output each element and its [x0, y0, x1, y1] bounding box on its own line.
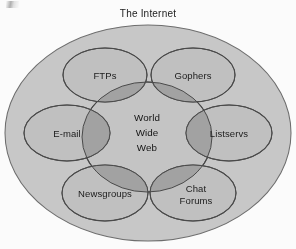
listservs-label: Listservs: [210, 128, 249, 139]
www-label-line2: Wide: [136, 127, 159, 138]
diagram-title: The Internet: [120, 8, 176, 19]
chat-forums-label-line2: Forums: [180, 195, 213, 206]
venn-diagram-canvas: The Internet FTPs Gophers E-mail Listser…: [0, 0, 296, 249]
www-label-line3: Web: [137, 142, 158, 153]
gophers-label: Gophers: [174, 70, 211, 81]
chat-forums-label-line1: Chat: [186, 183, 207, 194]
internet-venn-diagram-figure: The Internet FTPs Gophers E-mail Listser…: [0, 0, 296, 249]
www-label-line1: World: [134, 112, 160, 123]
email-label: E-mail: [53, 128, 81, 139]
newsgroups-label: Newsgroups: [78, 188, 132, 199]
ftps-label: FTPs: [93, 70, 116, 81]
